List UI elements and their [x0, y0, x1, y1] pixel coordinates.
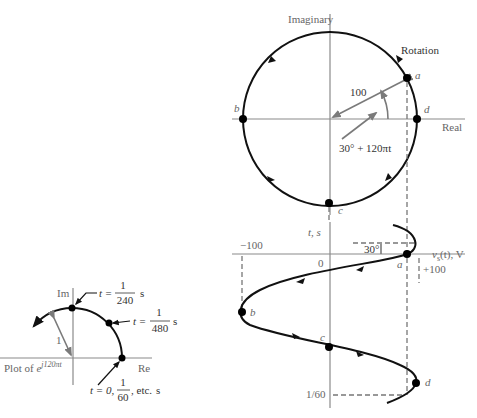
angle-pointer: [342, 113, 376, 139]
angle-arc: [381, 91, 388, 119]
wave-point-b: [238, 308, 246, 316]
wave-point-d: [412, 379, 420, 387]
phasor-point-d: [413, 115, 421, 123]
phasor-point-a-label: a: [415, 69, 421, 81]
annotation-t-240: t = 1 240 s: [99, 279, 144, 306]
phase-label: 30°: [364, 243, 379, 255]
angle-label: 30° + 120πt: [339, 142, 391, 154]
svg-text:t =: t =: [99, 287, 112, 299]
svg-text:s: s: [140, 287, 144, 299]
wave-point-c-label: c: [320, 331, 325, 343]
rotation-label: Rotation: [401, 44, 439, 56]
real-axis-label: Real: [442, 121, 462, 133]
svg-text:, etc.: , etc.: [131, 384, 152, 396]
voltage-waveform: [241, 225, 417, 403]
svg-text:1: 1: [120, 279, 126, 291]
svg-text:60: 60: [118, 391, 130, 403]
rotation-arrow-icon: [396, 55, 403, 63]
radius-label: 1: [56, 334, 62, 346]
voltage-axis-label: vs(t), V: [432, 248, 464, 263]
svg-text:1: 1: [120, 376, 126, 388]
period-label: 1/60: [306, 388, 326, 400]
svg-text:t =: t =: [133, 315, 146, 327]
imaginary-axis-label: Imaginary: [288, 13, 334, 25]
wave-point-d-label: d: [425, 376, 431, 388]
svg-text:240: 240: [117, 294, 134, 306]
magnitude-label: 100: [350, 86, 367, 98]
unit-phasor-plot: Im Re Plot of ej120πt 1 t = 1 240 s t = …: [0, 279, 177, 403]
time-axis-label: t, s: [308, 226, 321, 238]
pos-peak-label: +100: [423, 263, 446, 275]
leader-0: [98, 362, 119, 385]
neg-peak-label: −100: [240, 239, 263, 251]
svg-text:1: 1: [156, 306, 162, 318]
svg-text:s: s: [173, 315, 177, 327]
svg-text:480: 480: [152, 322, 169, 334]
wave-point-a: [403, 250, 411, 258]
unit-point-0: [119, 355, 126, 362]
annotation-t-0: t = 0, 1 60 , etc. s: [90, 376, 160, 403]
wave-arrow-icon: [356, 266, 364, 272]
wave-arrow-icon: [296, 278, 305, 284]
waveform-plot: t, s vs(t), V −100 +100 0 1/60 30° a b c…: [232, 222, 465, 408]
re-axis-label: Re: [138, 362, 150, 374]
leader-480: [113, 321, 130, 323]
plot-title: Plot of ej120πt: [4, 360, 63, 374]
annotation-t-480: t = 1 480 s: [133, 306, 177, 334]
phasor-point-b-label: b: [234, 102, 240, 114]
phasor-waveform-figure: Imaginary Real Rotation 100 30° + 120πt …: [0, 0, 477, 418]
im-axis-label: Im: [57, 287, 70, 299]
phasor-diagram: Imaginary Real Rotation 100 30° + 120πt …: [232, 13, 465, 395]
unit-point-480: [106, 320, 113, 327]
wave-point-c: [325, 343, 333, 351]
unit-point-240: [69, 305, 76, 312]
phasor-point-c-label: c: [338, 204, 343, 216]
svg-text:s: s: [156, 384, 160, 396]
phasor-point-d-label: d: [424, 103, 430, 115]
unit-phasor-arc: [34, 308, 122, 358]
phasor-point-a: [403, 74, 411, 82]
wave-point-a-label: a: [397, 258, 403, 270]
svg-text:t = 0,: t = 0,: [90, 384, 114, 396]
leader-240: [76, 293, 97, 304]
phasor-vector: [333, 80, 405, 117]
phasor-point-b: [239, 115, 247, 123]
origin-label: 0: [318, 257, 324, 269]
wave-point-b-label: b: [250, 306, 256, 318]
phasor-point-c: [325, 199, 333, 207]
